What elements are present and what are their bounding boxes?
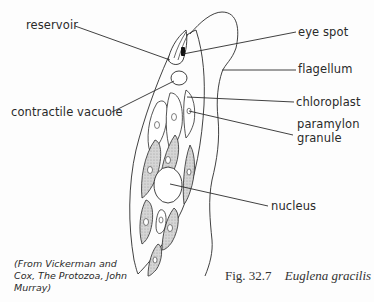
figure-species: Euglena gracilis [285, 268, 371, 283]
label-chloroplast: chloroplast [296, 96, 361, 109]
label-contractile-vacuole: contractile vacuole [11, 106, 123, 119]
label-paramylon-line2: granule [297, 132, 342, 145]
figure-euglena-gracilis: reservoir contractile vacuole eye spot f… [0, 0, 374, 302]
figure-caption: Fig. 32.7 Euglena gracilis [225, 268, 371, 284]
source-credit: (From Vickerman and Cox, The Protozoa, J… [14, 258, 134, 294]
label-flagellum: flagellum [298, 63, 352, 76]
figure-number: Fig. 32.7 [225, 268, 272, 283]
label-paramylon-line1: paramylon [297, 118, 360, 131]
label-reservoir: reservoir [26, 19, 78, 32]
eye-spot-shape [181, 47, 185, 56]
label-eye-spot: eye spot [298, 26, 348, 39]
nucleus-shape [154, 167, 182, 203]
contractile-vacuole-shape [171, 71, 187, 85]
label-nucleus: nucleus [271, 200, 316, 213]
euglena-diagram [0, 0, 374, 302]
